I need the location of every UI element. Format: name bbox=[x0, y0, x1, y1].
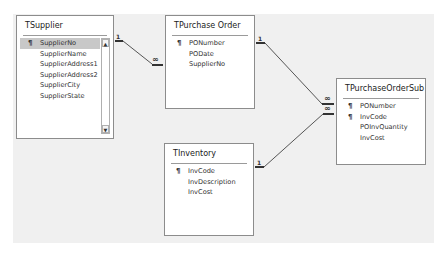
field-name: InvCost bbox=[360, 134, 385, 142]
relationship-purchaseorder-sub[interactable] bbox=[256, 43, 334, 104]
cardinality-one-label: 1 bbox=[116, 33, 120, 40]
table-tinventory[interactable]: TInventory ¶InvCode InvDescription InvCo… bbox=[164, 143, 254, 236]
field-row[interactable]: SupplierName bbox=[20, 49, 100, 60]
field-row[interactable]: InvCost bbox=[168, 187, 250, 198]
cardinality-many-label: ∞ bbox=[152, 55, 159, 64]
cardinality-one-label: 1 bbox=[257, 159, 261, 166]
table-tpurchaseorder[interactable]: TPurchase Order ¶PONumber PODate Supplie… bbox=[165, 15, 255, 109]
field-row[interactable]: ¶PONumber bbox=[340, 101, 422, 112]
field-row[interactable]: ¶InvCode bbox=[168, 166, 250, 177]
field-row[interactable]: InvCost bbox=[340, 133, 422, 144]
field-row[interactable]: SupplierAddress2 bbox=[20, 70, 100, 81]
scroll-down-icon[interactable]: ▼ bbox=[102, 125, 109, 133]
field-name: InvDescription bbox=[188, 178, 236, 186]
table-title: TSupplier bbox=[17, 16, 113, 35]
title-divider bbox=[23, 35, 107, 36]
field-name: PONumber bbox=[189, 39, 225, 47]
field-row[interactable]: PODate bbox=[169, 49, 251, 60]
field-row[interactable]: SupplierCity bbox=[20, 80, 100, 91]
table-title: TPurchaseOrderSub bbox=[337, 79, 425, 98]
title-divider bbox=[171, 163, 247, 164]
cardinality-many-label: ∞ bbox=[324, 94, 331, 103]
field-name: InvCost bbox=[188, 188, 213, 196]
title-divider bbox=[172, 35, 248, 36]
field-name: SupplierName bbox=[40, 50, 87, 58]
field-name: InvCode bbox=[188, 167, 215, 175]
primary-key-icon: ¶ bbox=[348, 112, 352, 123]
field-row[interactable]: ¶PONumber bbox=[169, 38, 251, 49]
table-title: TPurchase Order bbox=[166, 16, 254, 35]
field-row[interactable]: SupplierAddress1 bbox=[20, 59, 100, 70]
field-name: PODate bbox=[189, 50, 214, 58]
field-row[interactable]: SupplierNo bbox=[169, 59, 251, 70]
scroll-up-icon[interactable]: ▲ bbox=[102, 39, 109, 47]
cardinality-one-label: 1 bbox=[258, 35, 262, 42]
primary-key-icon: ¶ bbox=[177, 38, 181, 49]
field-name: PONumber bbox=[360, 102, 396, 110]
primary-key-icon: ¶ bbox=[28, 38, 32, 49]
field-name: SupplierNo bbox=[40, 39, 76, 47]
field-name: SupplierAddress1 bbox=[40, 60, 98, 68]
field-row[interactable]: ¶SupplierNo bbox=[20, 38, 100, 49]
table-tsupplier[interactable]: TSupplier ¶SupplierNo SupplierName Suppl… bbox=[16, 15, 114, 139]
field-row[interactable]: POInvQuantity bbox=[340, 122, 422, 133]
field-name: SupplierCity bbox=[40, 81, 80, 89]
field-name: SupplierNo bbox=[189, 60, 225, 68]
field-name: POInvQuantity bbox=[360, 123, 408, 131]
field-name: SupplierState bbox=[40, 92, 85, 100]
title-divider bbox=[343, 98, 419, 99]
relationship-inventory-sub[interactable] bbox=[255, 114, 334, 167]
vertical-scrollbar[interactable]: ▲ ▼ bbox=[101, 38, 110, 134]
cardinality-many-label: ∞ bbox=[324, 104, 331, 113]
field-row[interactable]: SupplierState bbox=[20, 91, 100, 102]
field-name: SupplierAddress2 bbox=[40, 71, 98, 79]
field-row[interactable]: ¶InvCode bbox=[340, 112, 422, 123]
primary-key-icon: ¶ bbox=[176, 166, 180, 177]
table-title: TInventory bbox=[165, 144, 253, 163]
primary-key-icon: ¶ bbox=[348, 101, 352, 112]
field-row[interactable]: InvDescription bbox=[168, 177, 250, 188]
field-name: InvCode bbox=[360, 113, 387, 121]
table-tpurchaseordersub[interactable]: TPurchaseOrderSub ¶PONumber ¶InvCode POI… bbox=[336, 78, 426, 165]
